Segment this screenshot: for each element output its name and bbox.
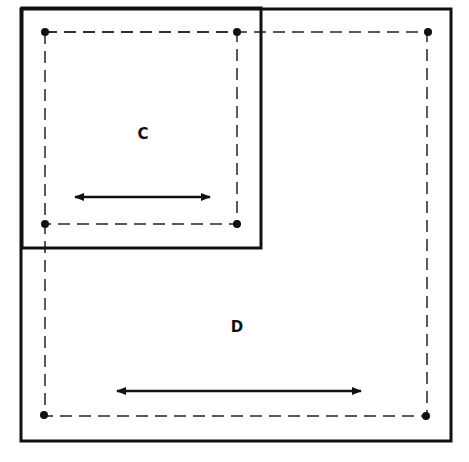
corner-dot-d-tr xyxy=(424,28,432,36)
corner-dot-c-tr xyxy=(233,28,241,36)
corner-dot-d-bl xyxy=(40,411,48,419)
label-c: C xyxy=(137,125,148,143)
nested-squares-diagram: C D xyxy=(0,0,469,462)
corner-dot-c-tl xyxy=(41,28,49,36)
corner-dot-d-br xyxy=(422,412,430,420)
corner-dot-c-br xyxy=(233,220,241,228)
label-d: D xyxy=(231,318,243,336)
corner-dot-c-bl xyxy=(41,220,49,228)
